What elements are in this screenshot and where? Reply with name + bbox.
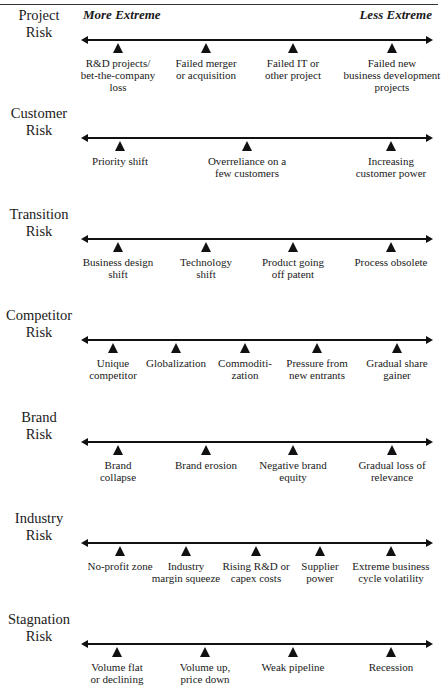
triangle-marker-icon (181, 546, 191, 556)
marker-label: Brandcollapse (68, 459, 168, 483)
arrow-left-icon (81, 36, 88, 44)
triangle-marker-icon (251, 546, 261, 556)
row-label-line2: Risk (0, 24, 78, 41)
triangle-marker-icon (242, 141, 252, 151)
spectrum-axis-brand (84, 441, 426, 443)
triangle-marker-icon (386, 242, 396, 252)
triangle-marker-icon (115, 546, 125, 556)
marker-label: Gradual loss ofrelevance (342, 459, 442, 483)
arrow-right-icon (426, 336, 433, 344)
row-label-customer: CustomerRisk (0, 105, 78, 139)
marker-label-line: customer power (341, 167, 441, 179)
marker-label-line: Negative brand (243, 459, 343, 471)
marker-label-line: Weak pipeline (243, 661, 343, 673)
triangle-marker-icon (113, 445, 123, 455)
row-label-project: ProjectRisk (0, 7, 78, 41)
triangle-marker-icon (386, 546, 396, 556)
marker-label-line: Product going (243, 256, 343, 268)
arrow-right-icon (426, 640, 433, 648)
spectrum-axis-project (84, 39, 426, 41)
more-extreme-label: More Extreme (83, 7, 161, 23)
marker-label: Process obsolete (341, 256, 441, 268)
row-label-brand: BrandRisk (0, 409, 78, 443)
marker-label-line: Business design (68, 256, 168, 268)
marker-label-line: Recession (341, 661, 441, 673)
marker-label-line: Priority shift (70, 155, 170, 167)
triangle-marker-icon (312, 343, 322, 353)
spectrum-axis-industry (84, 542, 426, 544)
arrow-left-icon (81, 640, 88, 648)
marker-label-line: few customers (197, 167, 297, 179)
marker-label: Gradual sharegainer (347, 357, 445, 381)
arrow-left-icon (81, 235, 88, 243)
triangle-marker-icon (113, 242, 123, 252)
marker-label-line: collapse (68, 471, 168, 483)
marker-label: Volume up,price down (155, 661, 255, 685)
marker-label: Brand erosion (156, 459, 256, 471)
marker-label-line: Brand erosion (156, 459, 256, 471)
triangle-marker-icon (387, 43, 397, 53)
marker-label: Failed newbusiness developmentprojects (342, 57, 442, 93)
marker-label-line: Technology (156, 256, 256, 268)
arrow-left-icon (81, 134, 88, 142)
arrow-left-icon (81, 539, 88, 547)
marker-label-line: shift (156, 268, 256, 280)
triangle-marker-icon (288, 43, 298, 53)
triangle-marker-icon (113, 43, 123, 53)
triangle-marker-icon (288, 445, 298, 455)
marker-label-line: Gradual share (347, 357, 445, 369)
row-label-line1: Industry (0, 510, 78, 527)
triangle-marker-icon (288, 242, 298, 252)
marker-label-line: Extreme business (341, 560, 441, 572)
row-label-competitor: CompetitorRisk (0, 307, 78, 341)
triangle-marker-icon (201, 242, 211, 252)
arrow-right-icon (426, 438, 433, 446)
marker-label-line: relevance (342, 471, 442, 483)
row-label-transition: TransitionRisk (0, 206, 78, 240)
marker-label: R&D projects/bet-the-companyloss (68, 57, 168, 93)
row-label-line1: Brand (0, 409, 78, 426)
spectrum-axis-customer (84, 137, 426, 139)
marker-label-line: projects (342, 81, 442, 93)
triangle-marker-icon (108, 343, 118, 353)
marker-label-line: other project (243, 69, 343, 81)
row-label-line2: Risk (0, 324, 78, 341)
row-label-line2: Risk (0, 628, 78, 645)
marker-label-line: Failed new (342, 57, 442, 69)
arrow-left-icon (81, 438, 88, 446)
row-label-line2: Risk (0, 223, 78, 240)
marker-label-line: or acquisition (156, 69, 256, 81)
triangle-marker-icon (201, 43, 211, 53)
marker-label-line: business development (342, 69, 442, 81)
spectrum-axis-stagnation (84, 643, 426, 645)
triangle-marker-icon (200, 647, 210, 657)
marker-label-line: cycle volatility (341, 572, 441, 584)
marker-label-line: Failed IT or (243, 57, 343, 69)
marker-label: Extreme businesscycle volatility (341, 560, 441, 584)
marker-label: Product goingoff patent (243, 256, 343, 280)
arrow-left-icon (81, 336, 88, 344)
triangle-marker-icon (386, 647, 396, 657)
marker-label: Failed mergeror acquisition (156, 57, 256, 81)
marker-label: Overreliance on afew customers (197, 155, 297, 179)
row-label-line1: Stagnation (0, 611, 78, 628)
marker-label-line: Volume flat (67, 661, 167, 673)
less-extreme-label: Less Extreme (359, 7, 432, 23)
marker-label-line: R&D projects/ (68, 57, 168, 69)
marker-label: Priority shift (70, 155, 170, 167)
marker-label-line: bet-the-company (68, 69, 168, 81)
marker-label-line: loss (68, 81, 168, 93)
marker-label-line: equity (243, 471, 343, 483)
marker-label-line: Brand (68, 459, 168, 471)
marker-label-line: or declining (67, 673, 167, 685)
arrow-right-icon (426, 235, 433, 243)
marker-label-line: Failed merger (156, 57, 256, 69)
top-rule (0, 4, 438, 5)
triangle-marker-icon (288, 647, 298, 657)
triangle-marker-icon (240, 343, 250, 353)
marker-label: Business designshift (68, 256, 168, 280)
arrow-right-icon (426, 36, 433, 44)
marker-label-line: Process obsolete (341, 256, 441, 268)
triangle-marker-icon (392, 343, 402, 353)
row-label-line1: Transition (0, 206, 78, 223)
